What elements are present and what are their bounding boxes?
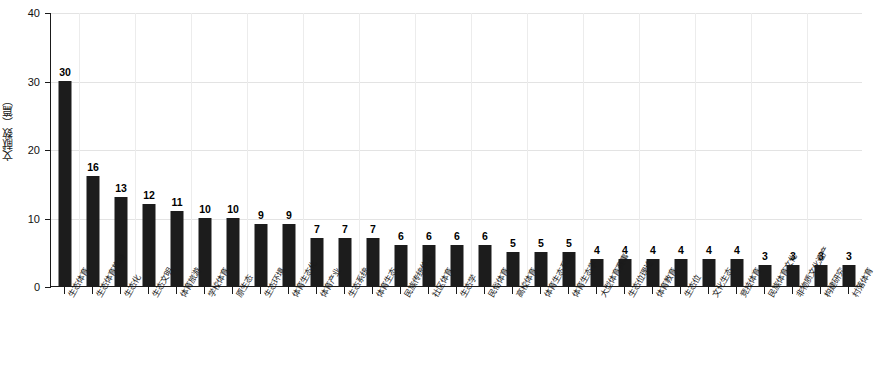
x-axis-tick <box>92 287 93 294</box>
bar-value-label: 9 <box>286 209 292 221</box>
bar-group[interactable]: 4 <box>583 13 611 286</box>
x-axis-tick <box>344 287 345 294</box>
y-axis-tick-label: 40 <box>28 7 40 19</box>
bar-group[interactable]: 9 <box>275 13 303 286</box>
x-axis-tick <box>652 287 653 294</box>
bars-layer: 301613121110109977766665554444443333 <box>51 13 862 286</box>
x-axis-tick <box>64 287 65 294</box>
x-axis-tick <box>680 287 681 294</box>
bar-group[interactable]: 7 <box>359 13 387 286</box>
bar-group[interactable]: 10 <box>191 13 219 286</box>
x-axis-tick <box>820 287 821 294</box>
bar[interactable] <box>395 245 408 286</box>
x-axis-tick <box>232 287 233 294</box>
x-axis-tick <box>568 287 569 294</box>
bar-value-label: 10 <box>199 203 211 215</box>
x-axis-tick <box>400 287 401 294</box>
bar-group[interactable]: 9 <box>247 13 275 286</box>
bar-value-label: 7 <box>370 223 376 235</box>
bar-group[interactable]: 5 <box>555 13 583 286</box>
bar-group[interactable]: 30 <box>51 13 79 286</box>
bar-group[interactable]: 6 <box>471 13 499 286</box>
x-axis-tick <box>792 287 793 294</box>
x-axis-tick <box>512 287 513 294</box>
bar-group[interactable]: 11 <box>163 13 191 286</box>
bar-group[interactable]: 6 <box>443 13 471 286</box>
x-axis-tick <box>428 287 429 294</box>
bar-value-label: 9 <box>258 209 264 221</box>
x-axis-tick <box>456 287 457 294</box>
bar-value-label: 4 <box>678 244 684 256</box>
bar[interactable] <box>143 204 156 286</box>
bar-value-label: 10 <box>227 203 239 215</box>
bar[interactable] <box>367 238 380 286</box>
bar-group[interactable]: 6 <box>387 13 415 286</box>
bar-value-label: 12 <box>143 189 155 201</box>
bar-value-label: 6 <box>482 230 488 242</box>
x-axis-tick <box>736 287 737 294</box>
x-axis-tick <box>764 287 765 294</box>
x-axis-tick <box>288 287 289 294</box>
bar-group[interactable]: 4 <box>695 13 723 286</box>
bar-value-label: 13 <box>115 182 127 194</box>
bar[interactable] <box>339 238 352 286</box>
bar-group[interactable]: 3 <box>751 13 779 286</box>
bar-value-label: 6 <box>398 230 404 242</box>
bar[interactable] <box>199 218 212 287</box>
bar-group[interactable]: 16 <box>79 13 107 286</box>
bar-value-label: 7 <box>342 223 348 235</box>
plot-area: 301613121110109977766665554444443333 <box>50 13 862 287</box>
bar[interactable] <box>227 218 240 287</box>
y-axis-tick-labels: 010203040 <box>0 13 40 287</box>
bar[interactable] <box>479 245 492 286</box>
bar-group[interactable]: 7 <box>303 13 331 286</box>
x-axis-tick <box>372 287 373 294</box>
x-axis-tick <box>540 287 541 294</box>
bar-group[interactable]: 4 <box>667 13 695 286</box>
bar-value-label: 16 <box>87 161 99 173</box>
bar-group[interactable]: 3 <box>835 13 863 286</box>
bar-value-label: 4 <box>650 244 656 256</box>
x-axis-tick <box>176 287 177 294</box>
x-axis-tick <box>708 287 709 294</box>
bar-group[interactable]: 3 <box>779 13 807 286</box>
x-axis-tick <box>260 287 261 294</box>
y-axis-tick-label: 30 <box>28 76 40 88</box>
bar[interactable] <box>283 224 296 286</box>
x-axis-tick <box>624 287 625 294</box>
y-axis-tick-label: 10 <box>28 213 40 225</box>
bar[interactable] <box>255 224 268 286</box>
bar-group[interactable]: 6 <box>415 13 443 286</box>
bar-value-label: 30 <box>59 66 71 78</box>
bar[interactable] <box>703 259 716 286</box>
bar[interactable] <box>59 81 72 287</box>
bar-group[interactable]: 10 <box>219 13 247 286</box>
x-axis-tick <box>596 287 597 294</box>
bar-group[interactable]: 4 <box>723 13 751 286</box>
x-axis-tick <box>148 287 149 294</box>
bar-value-label: 5 <box>538 237 544 249</box>
x-axis-tick <box>316 287 317 294</box>
bar-group[interactable]: 4 <box>639 13 667 286</box>
bar-value-label: 6 <box>454 230 460 242</box>
x-axis-tick <box>848 287 849 294</box>
bar-group[interactable]: 7 <box>331 13 359 286</box>
y-axis-tick-label: 20 <box>28 144 40 156</box>
x-axis-tick <box>120 287 121 294</box>
bar[interactable] <box>451 245 464 286</box>
bar-group[interactable]: 4 <box>611 13 639 286</box>
x-axis-tick <box>204 287 205 294</box>
bar-group[interactable]: 12 <box>135 13 163 286</box>
bar-value-label: 3 <box>762 250 768 262</box>
bar-value-label: 5 <box>510 237 516 249</box>
bar-value-label: 7 <box>314 223 320 235</box>
bar-group[interactable]: 13 <box>107 13 135 286</box>
bar-group[interactable]: 5 <box>499 13 527 286</box>
bar-value-label: 4 <box>706 244 712 256</box>
bar-value-label: 4 <box>594 244 600 256</box>
x-axis-tick-labels: 生态体育生态体育旅游生态化生态文明体育旅游学校体育原生态生态环境体育生态化体育产… <box>50 294 862 369</box>
bar-value-label: 11 <box>171 196 182 208</box>
bar-group[interactable]: 5 <box>527 13 555 286</box>
x-axis-tick <box>484 287 485 294</box>
